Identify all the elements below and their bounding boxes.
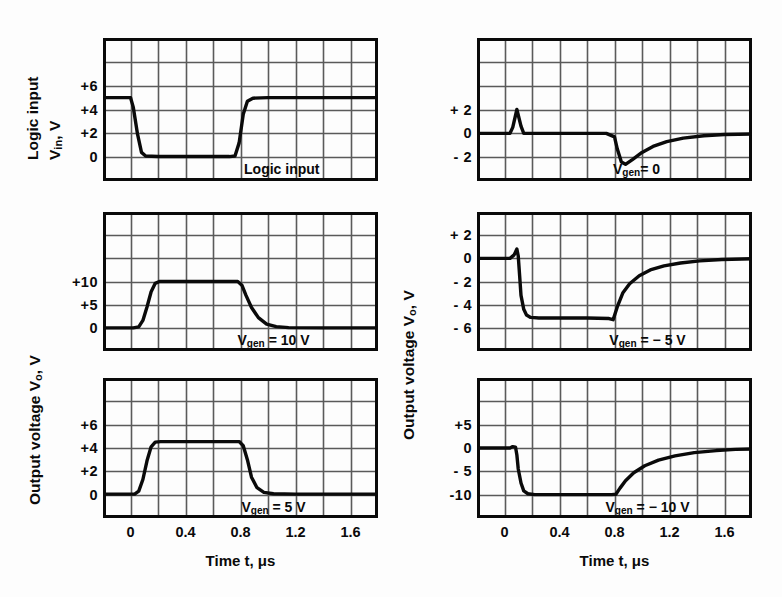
plot-grid-logic-input bbox=[103, 38, 378, 181]
y-tick-label: +4 bbox=[80, 102, 98, 118]
panel-annotation-vgen-10v: Vgen = 10 V bbox=[237, 332, 309, 349]
x-tick-label: 0.8 bbox=[230, 524, 250, 540]
waveform-trace-vgen-minus-5v bbox=[477, 249, 752, 320]
plot-grid-vgen-5v bbox=[103, 378, 378, 518]
y-tick-label: +2 bbox=[80, 463, 98, 479]
plot-panel-vgen-5v: Vgen = 5 V+6+4+2000.40.81.21.6Time t, μs bbox=[103, 378, 378, 518]
y-axis-ticks-vgen-minus-5v: + 20- 2- 4- 6 bbox=[420, 212, 472, 351]
y-tick-label: 0 bbox=[463, 125, 472, 141]
x-tick-label: 0.4 bbox=[549, 524, 569, 540]
x-tick-label: 0.4 bbox=[175, 524, 195, 540]
y-axis-ticks-vgen-5v: +6+4+20 bbox=[46, 378, 98, 518]
y-tick-label: +5 bbox=[454, 417, 472, 433]
x-tick-label: 0 bbox=[500, 524, 508, 540]
waveform-figure: Logic input+6+4+20Vgen = 10 V+10+50Vgen … bbox=[0, 0, 782, 597]
panel-annotation-vgen-minus-5v: Vgen = − 5 V bbox=[609, 332, 685, 349]
y-tick-label: -10 bbox=[450, 487, 472, 503]
plot-grid-vgen-10v bbox=[103, 212, 378, 351]
x-tick-label: 1.6 bbox=[340, 524, 360, 540]
x-tick-label: 0 bbox=[126, 524, 134, 540]
y-tick-label: 0 bbox=[463, 250, 472, 266]
y-tick-label: +6 bbox=[80, 417, 98, 433]
plot-panel-logic-input: Logic input+6+4+20 bbox=[103, 38, 378, 181]
y-axis-ticks-vgen-0: + 20- 2 bbox=[420, 38, 472, 181]
panel-annotation-vgen-5v: Vgen = 5 V bbox=[241, 499, 305, 516]
y-axis-title-logic-input-line2: Vin, V bbox=[46, 121, 64, 160]
y-tick-label: +4 bbox=[80, 440, 98, 456]
x-tick-label: 1.2 bbox=[285, 524, 305, 540]
y-tick-label: + 2 bbox=[450, 227, 472, 243]
x-axis-ticks-vgen-minus-10v: 00.40.81.21.6 bbox=[477, 524, 752, 546]
y-tick-label: + 2 bbox=[450, 102, 472, 118]
y-tick-label: +5 bbox=[80, 297, 98, 313]
y-tick-label: 0 bbox=[89, 320, 98, 336]
y-tick-label: 0 bbox=[89, 149, 98, 165]
waveform-trace-vgen-5v bbox=[103, 442, 378, 495]
panel-annotation-vgen-minus-10v: Vgen = − 10 V bbox=[605, 499, 689, 516]
y-tick-label: +2 bbox=[80, 125, 98, 141]
x-tick-label: 1.6 bbox=[714, 524, 734, 540]
y-axis-title-logic-input-line1: Logic input bbox=[24, 76, 42, 160]
panel-annotation-logic-input: Logic input bbox=[244, 161, 319, 177]
plot-grid-vgen-0 bbox=[477, 38, 752, 181]
x-axis-title-left: Time t, μs bbox=[103, 552, 378, 569]
y-tick-label: 0 bbox=[89, 487, 98, 503]
plot-grid-vgen-minus-10v bbox=[477, 378, 752, 518]
y-tick-label: - 2 bbox=[454, 274, 472, 290]
panel-annotation-vgen-0: Vgen= 0 bbox=[613, 161, 660, 178]
y-tick-label: - 6 bbox=[454, 320, 472, 336]
waveform-trace-logic-input bbox=[103, 98, 378, 157]
waveform-trace-vgen-minus-10v bbox=[477, 447, 752, 495]
y-axis-ticks-vgen-minus-10v: +50- 5-10 bbox=[420, 378, 472, 518]
y-axis-title-output-voltage-right: Output voltage Vo, V bbox=[400, 290, 418, 440]
y-axis-ticks-vgen-10v: +10+50 bbox=[46, 212, 98, 351]
y-tick-label: +10 bbox=[72, 274, 98, 290]
x-axis-ticks-vgen-5v: 00.40.81.21.6 bbox=[103, 524, 378, 546]
y-axis-title-output-voltage-left: Output voltage Vo, V bbox=[26, 355, 44, 505]
plot-panel-vgen-10v: Vgen = 10 V+10+50 bbox=[103, 212, 378, 351]
plot-panel-vgen-minus-5v: Vgen = − 5 V+ 20- 2- 4- 6 bbox=[477, 212, 752, 351]
plot-grid-vgen-minus-5v bbox=[477, 212, 752, 351]
x-tick-label: 1.2 bbox=[659, 524, 679, 540]
waveform-trace-vgen-0 bbox=[477, 110, 752, 165]
y-tick-label: - 4 bbox=[454, 297, 472, 313]
plot-panel-vgen-0: Vgen= 0+ 20- 2 bbox=[477, 38, 752, 181]
waveform-trace-vgen-10v bbox=[103, 282, 378, 328]
y-tick-label: 0 bbox=[463, 440, 472, 456]
y-tick-label: - 2 bbox=[454, 149, 472, 165]
y-tick-label: +6 bbox=[80, 78, 98, 94]
x-tick-label: 0.8 bbox=[604, 524, 624, 540]
y-tick-label: - 5 bbox=[454, 463, 472, 479]
plot-panel-vgen-minus-10v: Vgen = − 10 V+50- 5-1000.40.81.21.6Time … bbox=[477, 378, 752, 518]
x-axis-title-right: Time t, μs bbox=[477, 552, 752, 569]
